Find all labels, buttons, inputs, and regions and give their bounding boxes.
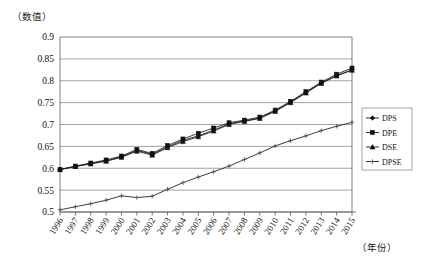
y-tick-labels: 0.50.550.60.650.70.750.80.850.9: [37, 32, 54, 217]
y-tick-label: 0.9: [42, 32, 54, 42]
series-dpe: [58, 66, 354, 172]
legend-item-label: DPSE: [382, 158, 402, 167]
y-tick-label: 0.7: [42, 120, 54, 130]
x-tick-label: 2009: [247, 215, 265, 236]
x-tick-label: 2011: [278, 216, 296, 236]
series-line: [60, 70, 352, 169]
series-line: [60, 70, 352, 170]
y-tick-label: 0.65: [37, 142, 54, 152]
x-tick-label: 2010: [262, 215, 280, 236]
legend-item-label: DPE: [382, 129, 397, 138]
x-tick-label: 1997: [63, 215, 81, 236]
y-tick-label: 0.85: [37, 54, 54, 64]
x-tick-label: 2007: [216, 215, 234, 236]
y-tick-label: 0.5: [42, 207, 54, 217]
data-point-marker: [371, 131, 375, 135]
x-tick-label: 2000: [109, 215, 127, 236]
x-tick-label: 2015: [339, 215, 357, 236]
series-dps: [58, 68, 355, 172]
x-tick-label: 1999: [93, 215, 111, 236]
x-tick-label: 1996: [47, 215, 65, 236]
y-tick-label: 0.6: [42, 164, 54, 174]
chart-legend: DPSDPEDSEDPSE: [362, 108, 412, 170]
y-tick-label: 0.75: [37, 98, 54, 108]
x-tick-label: 2001: [124, 216, 142, 237]
x-tick-label: 2014: [324, 215, 342, 236]
x-tick-label: 2005: [185, 215, 203, 236]
line-chart: （数值） （年份） 0.50.550.60.650.70.750.80.850.…: [0, 0, 430, 278]
y-tick-label: 0.55: [37, 186, 54, 196]
y-tick-label: 0.8: [42, 76, 54, 86]
x-tick-marks: [60, 212, 352, 216]
plot-canvas: 0.50.550.60.650.70.750.80.850.9 19961997…: [0, 0, 430, 278]
series-line: [60, 122, 352, 210]
legend-item-label: DSE: [382, 143, 397, 152]
x-tick-label: 2013: [308, 215, 326, 236]
series-dse: [58, 68, 355, 172]
x-tick-label: 2008: [232, 215, 250, 236]
x-tick-label: 2002: [139, 216, 157, 237]
x-tick-labels: 1996199719981999200020012002200320042005…: [47, 215, 357, 236]
series-line: [60, 68, 352, 170]
gridlines: [60, 37, 356, 212]
x-tick-label: 2006: [201, 215, 219, 236]
legend-item-label: DPS: [382, 114, 397, 123]
x-tick-label: 2004: [170, 215, 188, 236]
x-tick-label: 2012: [293, 216, 311, 237]
x-tick-label: 1998: [78, 215, 96, 236]
x-tick-label: 2003: [155, 215, 173, 236]
